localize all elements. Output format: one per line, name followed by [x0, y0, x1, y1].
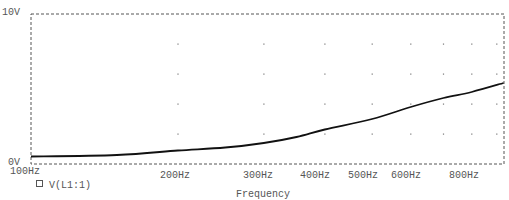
plot-frame [31, 14, 504, 164]
x-tick-400: 400Hz [300, 171, 330, 181]
x-tick-500: 500Hz [348, 171, 378, 181]
trace-v-l1 [31, 83, 504, 157]
x-tick-300: 300Hz [243, 171, 273, 181]
legend-item[interactable]: V(L1:1) [36, 180, 91, 191]
grid-dots [177, 44, 497, 135]
x-tick-800: 800Hz [449, 171, 479, 181]
legend-square-icon [36, 180, 43, 187]
legend-label: V(L1:1) [49, 180, 91, 191]
x-tick-100: 100Hz [10, 167, 40, 177]
x-tick-600: 600Hz [391, 171, 421, 181]
x-axis-title: Frequency [236, 190, 290, 200]
y-max-label: 10V [2, 8, 20, 18]
x-tick-200: 200Hz [160, 171, 190, 181]
